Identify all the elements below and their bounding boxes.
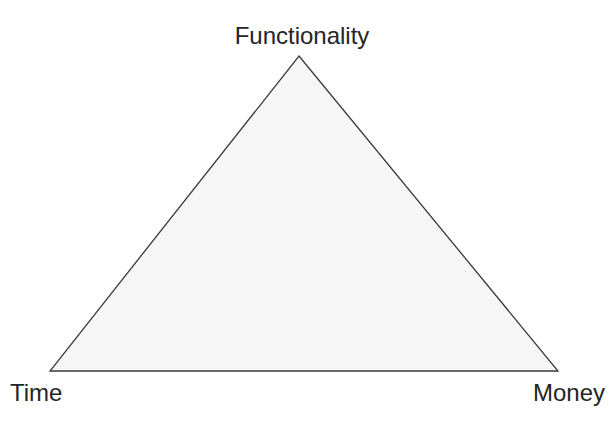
vertex-label-functionality: Functionality [0,24,604,48]
triangle-figure [0,0,616,426]
vertex-label-time: Time [10,381,62,405]
diagram-canvas: Functionality Time Money [0,0,616,426]
project-triangle-shape [50,56,558,371]
vertex-label-money: Money [533,381,605,405]
